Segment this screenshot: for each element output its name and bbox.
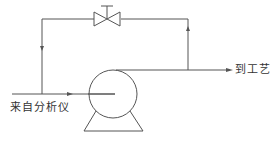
pump-icon (84, 70, 143, 131)
arrow-up-icon (186, 26, 190, 31)
arrow-down-icon (40, 46, 44, 51)
outlet-arrow-right-icon (226, 68, 233, 72)
outlet-label: 到工艺 (235, 64, 271, 76)
inlet-label: 来自分析仪 (10, 102, 70, 114)
process-diagram (0, 0, 273, 146)
globe-valve-icon (94, 6, 120, 26)
arrow-right-icon (67, 92, 73, 96)
